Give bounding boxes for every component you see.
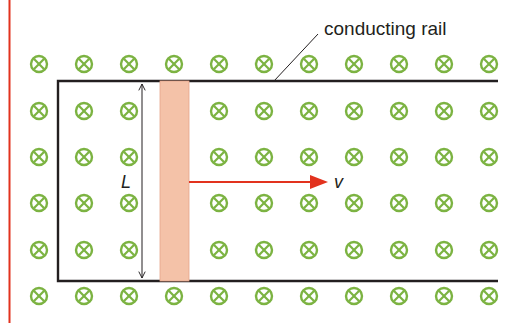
field-into-page-icon [301,56,317,72]
field-into-page-icon [211,103,227,119]
field-into-page-icon [481,149,497,165]
field-into-page-icon [121,242,137,258]
field-into-page-icon [31,56,47,72]
field-into-page-icon [31,242,47,258]
field-into-page-icon [31,195,47,211]
field-into-page-icon [301,149,317,165]
field-into-page-icon [31,103,47,119]
field-into-page-icon [121,288,137,304]
field-into-page-icon [346,56,362,72]
field-into-page-icon [481,56,497,72]
field-into-page-icon [256,195,272,211]
field-into-page-icon [211,149,227,165]
field-into-page-icon [31,288,47,304]
field-into-page-icon [76,103,92,119]
field-into-page-icon [346,103,362,119]
field-into-page-icon [76,288,92,304]
field-into-page-icon [301,195,317,211]
field-into-page-icon [121,103,137,119]
field-into-page-icon [346,195,362,211]
field-into-page-icon [481,242,497,258]
diagram-canvas: L v conducting rail [0,0,528,323]
field-into-page-icon [76,149,92,165]
field-into-page-icon [391,195,407,211]
field-into-page-icon [346,242,362,258]
field-into-page-icon [481,195,497,211]
field-into-page-icon [391,242,407,258]
field-into-page-icon [481,288,497,304]
field-into-page-icon [256,242,272,258]
field-into-page-icon [166,288,182,304]
field-into-page-icon [301,103,317,119]
field-into-page-icon [211,195,227,211]
field-into-page-icon [76,242,92,258]
field-into-page-icon [301,242,317,258]
field-into-page-icon [391,103,407,119]
field-into-page-icon [436,56,452,72]
field-into-page-icon [436,242,452,258]
field-into-page-icon [121,149,137,165]
length-label: L [121,172,131,192]
field-into-page-icon [391,288,407,304]
rail-diagram: L v conducting rail [0,0,528,323]
field-into-page-icon [436,288,452,304]
field-into-page-icon [256,103,272,119]
field-into-page-icon [436,195,452,211]
field-into-page-icon [211,242,227,258]
field-into-page-icon [31,149,47,165]
field-into-page-icon [211,288,227,304]
field-into-page-icon [76,56,92,72]
field-into-page-icon [436,149,452,165]
field-into-page-icon [256,149,272,165]
field-into-page-icon [346,288,362,304]
velocity-label: v [334,172,344,192]
field-into-page-icon [391,149,407,165]
field-into-page-icon [301,288,317,304]
field-into-page-icon [121,56,137,72]
field-into-page-icon [166,56,182,72]
field-into-page-icon [346,149,362,165]
field-into-page-icon [211,56,227,72]
field-into-page-icon [121,195,137,211]
field-into-page-icon [256,56,272,72]
rail-label: conducting rail [324,18,447,39]
field-into-page-icon [256,288,272,304]
field-into-page-icon [481,103,497,119]
field-into-page-icon [391,56,407,72]
sliding-bar [160,81,189,281]
magnetic-field-symbols [31,56,497,304]
field-into-page-icon [436,103,452,119]
field-into-page-icon [76,195,92,211]
velocity-arrow [189,175,328,189]
